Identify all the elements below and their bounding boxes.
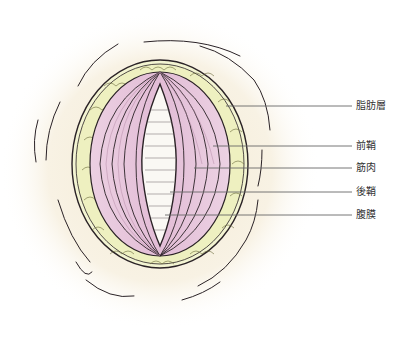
incision-diagram	[0, 0, 411, 337]
label-anterior-sheath: 前鞘	[356, 140, 376, 152]
label-muscle: 筋肉	[356, 162, 376, 174]
label-fat-layer: 脂肪層	[356, 100, 386, 112]
label-posterior-sheath: 後鞘	[356, 186, 376, 198]
label-peritoneum: 腹膜	[356, 209, 376, 221]
